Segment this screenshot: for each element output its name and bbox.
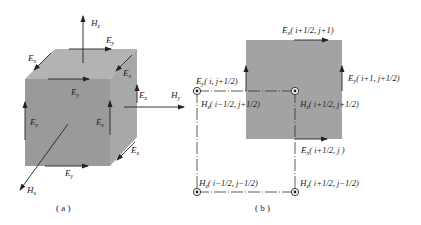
label-hz-topright: Hz( i+1/2, j+1/2) — [299, 99, 359, 110]
label-ex-topleft: Ex — [27, 53, 37, 64]
label-hz-topleft: Hz( i−1/2, j+1/2) — [200, 99, 260, 110]
label-ez-rightface: Ez — [138, 90, 148, 101]
label-hz: Hz — [90, 18, 101, 29]
label-ex-bottom: Ex( i+1/2, j ) — [300, 145, 345, 156]
label-hx: Hx — [26, 185, 37, 196]
label-hz-bottomleft: Hz( i−1/2, j−1/2) — [198, 178, 258, 189]
caption-a: ( a ) — [56, 203, 71, 213]
yee-cell-figure: Hz Ey Ex Ex Ey Ez Ez Ez Ex Ey Hx Hy ( a … — [0, 0, 421, 225]
hz-out-of-plane-icon — [193, 87, 200, 94]
label-ex-bottomright: Ex — [130, 145, 140, 156]
caption-b: ( b ) — [255, 203, 270, 213]
label-ey-bottom: Ey — [64, 168, 74, 179]
label-ex-top: Ex( i+1/2, j+1) — [281, 25, 334, 36]
hz-out-of-plane-icon — [291, 87, 298, 94]
panel-a-cube: Hz Ey Ex Ex Ey Ez Ez Ez Ex Ey Hx Hy ( a … — [20, 16, 184, 213]
hz-out-of-plane-icon — [193, 188, 200, 195]
label-hz-bottomright: Hz( i+1/2, j−1/2) — [299, 178, 359, 189]
hz-out-of-plane-icon — [291, 188, 298, 195]
label-ey-right: Ey( i+1, j+1/2) — [347, 73, 400, 84]
label-ey-left: Ey( i, j+1/2) — [195, 76, 238, 87]
label-hy: Hy — [170, 90, 181, 101]
label-ey-top: Ey — [105, 35, 115, 46]
panel-b-grid: Ex( i+1/2, j+1) Ey( i, j+1/2) Ey( i+1, j… — [193, 25, 399, 213]
